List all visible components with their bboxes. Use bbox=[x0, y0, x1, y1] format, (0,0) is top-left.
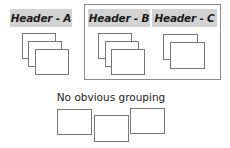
ungrouped-caption: No obvious grouping bbox=[55, 91, 167, 105]
header-a: Header - A bbox=[10, 9, 72, 27]
header-b: Header - B bbox=[88, 9, 150, 27]
ungrouped-card-3 bbox=[130, 108, 165, 134]
card-a-3 bbox=[35, 49, 69, 75]
card-c-2 bbox=[170, 42, 205, 69]
header-c: Header - C bbox=[152, 9, 217, 27]
ungrouped-card-1 bbox=[57, 109, 92, 135]
card-b-3 bbox=[111, 49, 145, 75]
ungrouped-card-2 bbox=[94, 115, 129, 142]
